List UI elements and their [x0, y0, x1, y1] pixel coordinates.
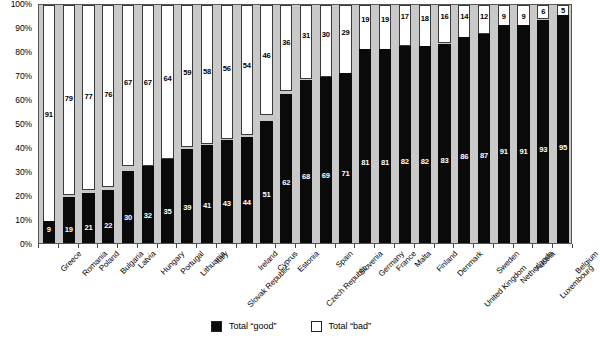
bar-value-label-bad: 54 [243, 62, 251, 70]
bar-column: 6732 [142, 5, 154, 243]
bar-value-label-bad: 6 [541, 8, 545, 16]
bar-segment-good [142, 166, 154, 243]
bar-value-label-good: 41 [203, 202, 211, 210]
bar-segment-good [102, 190, 114, 243]
bar-value-label-bad: 16 [440, 13, 448, 21]
bar-value-label-bad: 36 [282, 39, 290, 47]
bar-value-label-good: 32 [144, 212, 152, 220]
bar-value-label-good: 82 [401, 158, 409, 166]
y-axis-tick-label: 90% [15, 24, 32, 33]
x-axis-tick [572, 244, 573, 248]
bar-column: 991 [498, 5, 510, 243]
bar-value-label-good: 86 [460, 154, 468, 162]
bar-value-label-bad: 77 [84, 93, 92, 101]
bar-value-label-bad: 5 [561, 7, 565, 15]
bar-segment-good [419, 46, 431, 243]
bar-value-label-good: 83 [440, 157, 448, 165]
x-axis-category-label: Spain [335, 250, 355, 270]
bar-column: 5643 [221, 5, 233, 243]
bar-value-label-bad: 64 [164, 76, 172, 84]
bar-segment-bad [339, 5, 351, 75]
bar-value-label-good: 35 [164, 209, 172, 217]
x-axis-category-label: Slovak Republic [246, 264, 291, 309]
chart-legend: Total “good” Total “bad” [0, 316, 582, 336]
bar-column: 6435 [161, 5, 173, 243]
bar-column: 1981 [359, 5, 371, 243]
bars-layer: 9197919772176226730673264355939584156435… [39, 5, 571, 243]
bar-value-label-bad: 18 [421, 15, 429, 23]
bar-segment-bad [379, 5, 391, 51]
bar-column: 7919 [63, 5, 75, 243]
bar-value-label-good: 69 [322, 172, 330, 180]
x-axis-category-label: Estonia [297, 250, 321, 274]
bar-value-label-bad: 30 [322, 31, 330, 39]
bar-column: 991 [517, 5, 529, 243]
bar-column: 7622 [102, 5, 114, 243]
bar-segment-bad [280, 5, 292, 91]
bar-value-label-good: 91 [500, 148, 508, 156]
bar-value-label-bad: 59 [183, 69, 191, 77]
legend-item-bad: Total “bad” [311, 321, 372, 332]
legend-swatch-bad-icon [311, 321, 322, 332]
bar-segment-good [181, 149, 193, 243]
bar-value-label-good: 81 [381, 159, 389, 167]
legend-item-good: Total “good” [211, 321, 277, 332]
bar-segment-bad [320, 5, 332, 77]
bar-value-label-good: 21 [84, 224, 92, 232]
x-axis-category-label: Austria [534, 250, 557, 273]
bar-value-label-bad: 46 [262, 52, 270, 60]
bar-segment-good [241, 137, 253, 243]
bar-value-label-good: 43 [223, 200, 231, 208]
bar-segment-good [82, 193, 94, 243]
bar-value-label-bad: 56 [223, 65, 231, 73]
bar-segment-good [63, 197, 75, 243]
bar-segment-bad [458, 5, 470, 39]
y-axis-tick-label: 80% [15, 48, 32, 57]
bar-column: 1981 [379, 5, 391, 243]
bar-segment-good [517, 25, 529, 243]
bar-segment-good [280, 94, 292, 243]
bar-value-label-good: 82 [421, 158, 429, 166]
bar-column: 693 [537, 5, 549, 243]
bar-value-label-good: 95 [559, 144, 567, 152]
bar-value-label-bad: 31 [302, 32, 310, 40]
bar-segment-bad [359, 5, 371, 51]
bar-value-label-good: 30 [124, 214, 132, 222]
bar-segment-good [379, 49, 391, 243]
bar-value-label-bad: 29 [342, 29, 350, 37]
bar-value-label-good: 44 [243, 199, 251, 207]
bar-column: 1683 [438, 5, 450, 243]
bar-segment-good [260, 121, 272, 243]
bar-column: 5939 [181, 5, 193, 243]
bar-value-label-good: 91 [520, 148, 528, 156]
bar-value-label-bad: 67 [124, 80, 132, 88]
x-axis-category-label: Denmark [457, 250, 485, 278]
bar-value-label-good: 87 [480, 152, 488, 160]
bar-value-label-good: 81 [361, 159, 369, 167]
bar-segment-good [498, 25, 510, 243]
bar-segment-bad [419, 5, 431, 48]
bar-segment-bad [300, 5, 312, 79]
legend-label-good: Total “good” [229, 322, 277, 331]
bar-segment-good [438, 44, 450, 243]
bar-column: 4651 [260, 5, 272, 243]
bar-column: 3168 [300, 5, 312, 243]
bar-value-label-good: 62 [282, 179, 290, 187]
bar-segment-bad [438, 5, 450, 43]
bar-value-label-bad: 76 [104, 92, 112, 100]
bar-value-label-bad: 12 [480, 13, 488, 21]
y-axis-tick-label: 70% [15, 72, 32, 81]
bar-segment-good [557, 15, 569, 243]
bar-column: 3662 [280, 5, 292, 243]
bar-value-label-good: 39 [183, 204, 191, 212]
bar-value-label-bad: 19 [361, 16, 369, 24]
bar-column: 595 [557, 5, 569, 243]
y-axis-tick-label: 10% [15, 216, 32, 225]
bar-value-label-bad: 9 [502, 13, 506, 21]
legend-label-bad: Total “bad” [329, 322, 372, 331]
bar-column: 1782 [399, 5, 411, 243]
plot-area: 9197919772176226730673264355939584156435… [38, 4, 572, 244]
x-axis-category-label: Greece [59, 250, 83, 274]
bar-column: 1882 [419, 5, 431, 243]
